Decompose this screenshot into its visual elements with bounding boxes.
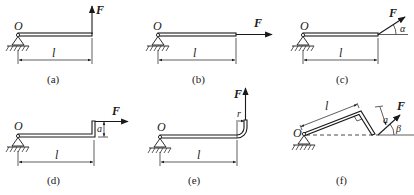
angle-label: α xyxy=(400,23,406,34)
origin-label: O xyxy=(293,126,302,140)
panel-b: O F l (b) xyxy=(146,16,272,86)
angle-arc xyxy=(394,25,397,35)
offset-label: a xyxy=(383,114,388,125)
beam-diagram: O F l (a) O F l (b) O F α l (c) xyxy=(0,0,414,195)
force-label: F xyxy=(95,3,104,17)
beam xyxy=(304,111,375,136)
origin-label: O xyxy=(14,119,23,133)
length-label: l xyxy=(193,46,197,60)
beam xyxy=(158,33,236,36)
panel-c: O F α l (c) xyxy=(291,6,408,86)
angle-label: β xyxy=(395,123,401,134)
beam xyxy=(18,33,92,36)
radius-label: r xyxy=(237,108,241,119)
origin-label: O xyxy=(153,19,162,33)
angle-arc xyxy=(390,124,394,135)
beam xyxy=(18,121,95,137)
panel-caption: (a) xyxy=(47,73,60,86)
panel-f: O l a F β (f) xyxy=(292,99,414,187)
panel-caption: (c) xyxy=(336,73,349,86)
length-label: l xyxy=(52,46,56,60)
origin-label: O xyxy=(14,19,23,33)
panel-caption: (d) xyxy=(47,174,60,187)
force-label: F xyxy=(396,99,405,113)
beam xyxy=(160,120,247,138)
length-label: l xyxy=(197,148,201,162)
length-label: l xyxy=(325,99,329,113)
offset-label: a xyxy=(97,123,102,134)
origin-label: O xyxy=(157,120,166,134)
panel-e: O F r l (e) xyxy=(148,87,247,187)
origin-label: O xyxy=(300,19,309,33)
force-label: F xyxy=(233,87,242,101)
beam xyxy=(303,33,378,36)
panel-a: O F l (a) xyxy=(6,3,104,86)
force-label: F xyxy=(111,104,120,118)
force-label: F xyxy=(388,6,397,20)
panel-d: O F a l (d) xyxy=(6,104,128,187)
length-label: l xyxy=(55,148,59,162)
force-label: F xyxy=(253,16,262,30)
panel-caption: (f) xyxy=(336,174,347,187)
length-label: l xyxy=(339,46,343,60)
panel-caption: (b) xyxy=(192,73,205,86)
panel-caption: (e) xyxy=(188,174,201,187)
